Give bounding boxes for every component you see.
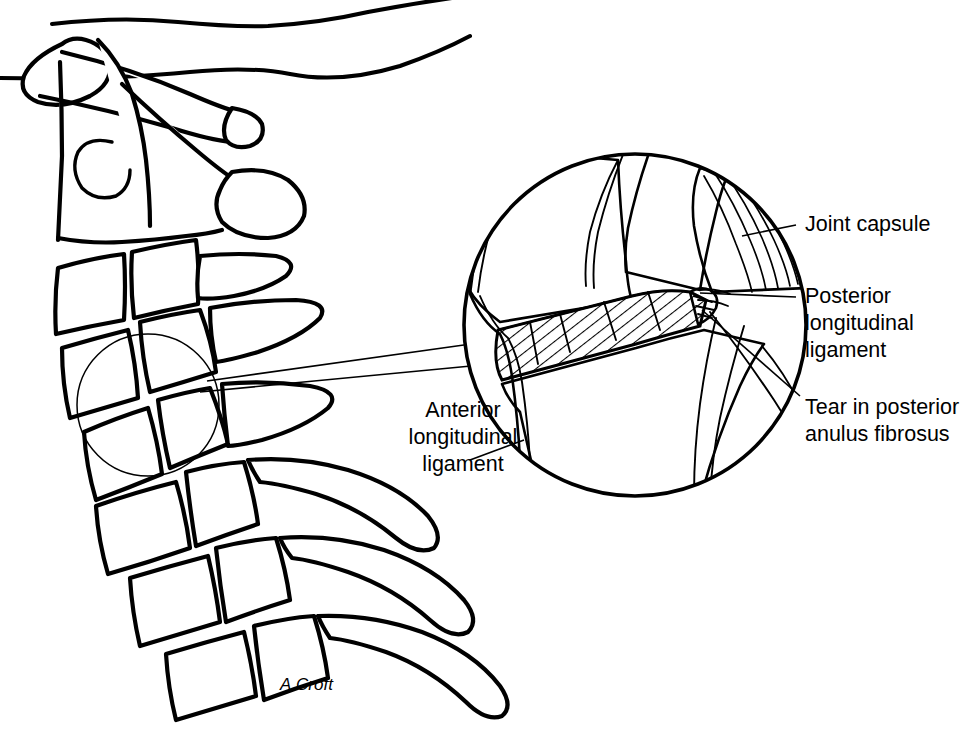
- all-line-2: longitudinal: [409, 425, 518, 449]
- c2-spinous-process: [216, 170, 304, 238]
- c3-body: [55, 254, 125, 334]
- all-line-1: Anterior: [425, 398, 500, 422]
- tear-line-2: anulus fibrosus: [805, 422, 950, 446]
- pll-line-3: ligament: [805, 338, 886, 362]
- artist-signature: A.Croft: [279, 675, 334, 694]
- c3-posterior-element: [131, 240, 198, 318]
- pll-line-1: Posterior: [805, 284, 891, 308]
- label-joint-capsule: Joint capsule: [805, 212, 931, 236]
- all-line-3: ligament: [422, 452, 503, 476]
- tear-line-1: Tear in posterior: [805, 395, 959, 419]
- joint-capsule-line-1: Joint capsule: [805, 212, 931, 236]
- anatomical-figure: Joint capsule Posterior longitudinal lig…: [0, 0, 966, 734]
- pll-line-2: longitudinal: [805, 311, 914, 335]
- illustration-canvas: Joint capsule Posterior longitudinal lig…: [0, 0, 966, 734]
